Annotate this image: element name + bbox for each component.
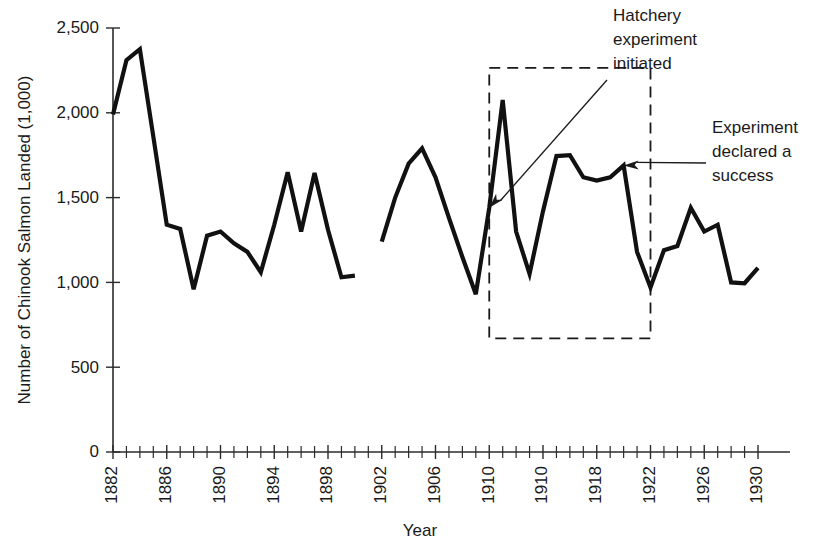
- y-tick-label-0: 0: [90, 442, 99, 461]
- x-tick-label-5: 1902: [371, 466, 390, 504]
- annotation-success-line-2: success: [712, 166, 773, 185]
- annotation-success-line-1: declared a: [712, 142, 792, 161]
- annotation-hatchery-line-1: experiment: [613, 30, 697, 49]
- annotation-success-line-0: Experiment: [712, 118, 798, 137]
- x-tick-label-11: 1926: [694, 466, 713, 504]
- y-tick-label-1500: 1,500: [56, 188, 99, 207]
- annotation-hatchery-line-2: initiated: [613, 54, 672, 73]
- x-tick-label-9: 1918: [586, 466, 605, 504]
- annotation-hatchery-line-0: Hatchery: [613, 6, 682, 25]
- x-tick-label-10: 1922: [640, 466, 659, 504]
- x-tick-label-4: 1898: [317, 466, 336, 504]
- y-axis-title: Number of Chinook Salmon Landed (1,000): [15, 76, 34, 405]
- y-tick-label-1000: 1,000: [56, 273, 99, 292]
- x-tick-label-7: 1910: [479, 466, 498, 504]
- y-tick-label-2500: 2,500: [56, 18, 99, 37]
- x-tick-label-3: 1894: [264, 466, 283, 504]
- x-tick-label-8: 1910: [532, 466, 551, 504]
- leader-line-success: [637, 162, 706, 163]
- y-tick-label-2000: 2,000: [56, 103, 99, 122]
- y-tick-label-500: 500: [71, 358, 99, 377]
- chart-figure: 05001,0001,5002,0002,500 188218861890189…: [0, 0, 820, 553]
- x-tick-label-6: 1906: [425, 466, 444, 504]
- x-tick-label-12: 1930: [747, 466, 766, 504]
- x-axis-title: Year: [403, 521, 438, 540]
- x-tick-label-1: 1886: [156, 466, 175, 504]
- x-tick-label-2: 1890: [210, 466, 229, 504]
- x-tick-label-0: 1882: [102, 466, 121, 504]
- salmon-landings-line-chart: 05001,0001,5002,0002,500 188218861890189…: [0, 0, 820, 553]
